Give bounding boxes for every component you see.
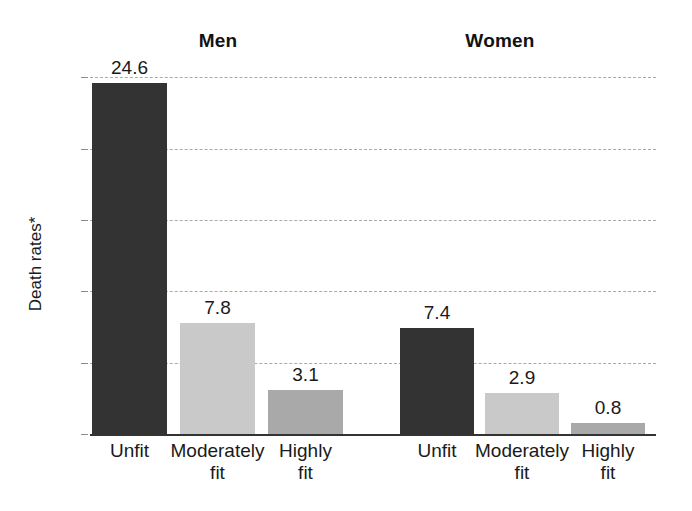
x-axis-label: Highlyfit bbox=[279, 440, 332, 484]
y-tick-mark-5 bbox=[81, 363, 88, 364]
x-axis-label-line1: Unfit bbox=[417, 440, 456, 461]
x-axis-label-line1: Highly bbox=[279, 440, 332, 461]
bar bbox=[571, 423, 645, 434]
x-axis-label-line1: Highly bbox=[582, 440, 635, 461]
bar-value-label: 0.8 bbox=[595, 398, 621, 417]
bar bbox=[268, 390, 343, 434]
x-axis-label-line2: fit bbox=[475, 462, 569, 484]
x-axis-line bbox=[90, 434, 656, 436]
x-axis-label: Unfit bbox=[110, 440, 149, 462]
x-axis-label-line2: fit bbox=[279, 462, 332, 484]
x-axis-label-line2: fit bbox=[171, 462, 265, 484]
plot-area: 0510152025 24.67.83.17.42.90.8 bbox=[90, 60, 656, 435]
bar-value-label: 7.8 bbox=[204, 298, 230, 317]
bar bbox=[180, 323, 255, 434]
x-axis-label: Highlyfit bbox=[582, 440, 635, 484]
x-axis-label-line1: Moderately bbox=[475, 440, 569, 461]
x-axis-label-line1: Unfit bbox=[110, 440, 149, 461]
group-title-men: Men bbox=[199, 30, 238, 52]
x-axis-label: Moderatelyfit bbox=[171, 440, 265, 484]
gridline-20 bbox=[90, 149, 656, 150]
bar-value-label: 2.9 bbox=[509, 368, 535, 387]
bar-chart-figure: Men Women Death rates* 0510152025 24.67.… bbox=[0, 0, 692, 511]
gridline-10 bbox=[90, 291, 656, 292]
bar bbox=[92, 83, 167, 434]
bar-value-label: 7.4 bbox=[424, 303, 450, 322]
x-axis-label-line1: Moderately bbox=[171, 440, 265, 461]
x-axis-label: Moderatelyfit bbox=[475, 440, 569, 484]
bar-value-label: 24.6 bbox=[111, 58, 148, 77]
y-tick-mark-15 bbox=[81, 220, 88, 221]
y-axis-title: Death rates* bbox=[26, 164, 46, 364]
bar-value-label: 3.1 bbox=[292, 365, 318, 384]
y-tick-mark-25 bbox=[81, 77, 88, 78]
gridline-15 bbox=[90, 220, 656, 221]
y-tick-mark-10 bbox=[81, 291, 88, 292]
bar bbox=[485, 393, 559, 434]
x-axis-label: Unfit bbox=[417, 440, 456, 462]
gridline-5 bbox=[90, 363, 656, 364]
bar bbox=[400, 328, 474, 434]
y-tick-mark-0 bbox=[81, 434, 88, 435]
gridline-25 bbox=[90, 77, 656, 78]
x-axis-label-line2: fit bbox=[582, 462, 635, 484]
y-tick-mark-20 bbox=[81, 149, 88, 150]
group-title-women: Women bbox=[465, 30, 534, 52]
